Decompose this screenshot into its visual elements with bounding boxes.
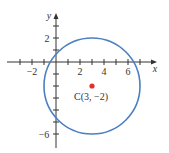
x-tick-label: 6 bbox=[126, 66, 131, 77]
y-tick-label: 2 bbox=[45, 33, 50, 44]
x-tick-label: 2 bbox=[78, 66, 83, 77]
x-axis-label: x bbox=[152, 63, 158, 74]
x-tick-label: −2 bbox=[27, 66, 38, 77]
center-point-label: C(3, −2) bbox=[74, 91, 108, 103]
y-tick-label: −6 bbox=[39, 129, 50, 140]
x-tick-label: 4 bbox=[102, 66, 107, 77]
y-axis-arrow-icon bbox=[54, 13, 59, 19]
circle-plot: −2 2 4 6 x 2 −6 y C(3, −2) bbox=[0, 0, 169, 153]
x-axis: −2 2 4 6 x bbox=[7, 59, 158, 77]
y-axis: 2 −6 y bbox=[39, 10, 59, 148]
y-axis-label: y bbox=[46, 10, 52, 21]
center-point bbox=[89, 83, 94, 88]
